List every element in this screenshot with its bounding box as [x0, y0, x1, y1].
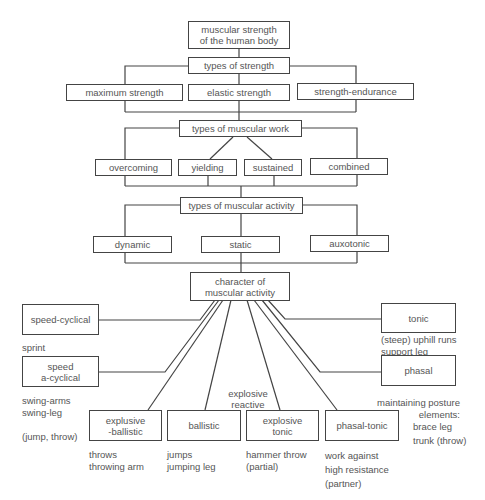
- overcoming-box: overcoming: [95, 159, 172, 176]
- ballistic-box: ballistic: [167, 410, 241, 441]
- explosive-reactive-label: explosive reactive: [220, 388, 276, 410]
- speed-cyclical-examples: sprint: [22, 342, 45, 354]
- phasal-tonic-box: phasal-tonic: [325, 410, 399, 441]
- combined-box: combined: [310, 158, 388, 175]
- phasal-tonic-examples: work against high resistance (partner): [325, 449, 389, 491]
- root-box: muscular strength of the human body: [188, 21, 290, 49]
- dynamic-box: dynamic: [93, 236, 172, 253]
- sustained-box: sustained: [244, 159, 302, 176]
- static-box: static: [201, 236, 280, 253]
- phasal-examples: brace leg trunk (throw): [413, 420, 466, 448]
- speed-acyclical-box: speed a-cyclical: [22, 356, 99, 387]
- ballistic-examples: jumps jumping leg: [167, 449, 216, 473]
- muscular-strength-diagram: muscular strength of the human body type…: [0, 0, 485, 500]
- explosive-tonic-box: explosive tonic: [246, 410, 319, 441]
- explosive-ballistic-examples: throws throwing arm: [89, 449, 144, 473]
- explosive-tonic-examples: hammer throw (partial): [246, 449, 307, 473]
- tonic-box: tonic: [381, 303, 456, 333]
- yielding-box: yielding: [178, 159, 237, 176]
- phasal-box: phasal: [381, 355, 456, 386]
- elastic-strength-box: elastic strength: [188, 84, 290, 101]
- character-of-muscular-activity-box: character of muscular activity: [190, 272, 290, 301]
- auxotonic-box: auxotonic: [310, 235, 389, 252]
- types-of-muscular-work-box: types of muscular work: [179, 120, 302, 137]
- types-of-strength-box: types of strength: [188, 57, 290, 74]
- strength-endurance-box: strength-endurance: [297, 83, 414, 100]
- speed-cyclical-box: speed-cyclical: [22, 304, 99, 335]
- types-of-muscular-activity-box: types of muscular activity: [180, 197, 303, 214]
- speed-acyclical-examples: swing-arms swing-leg (jump, throw): [22, 395, 77, 443]
- maximum-strength-box: maximum strength: [66, 84, 183, 101]
- explosive-ballistic-box: explusive -ballistic: [89, 410, 162, 441]
